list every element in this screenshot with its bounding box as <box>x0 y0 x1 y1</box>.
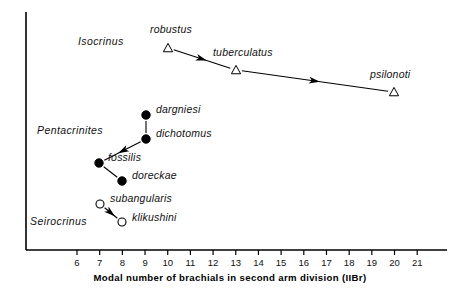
x-tick-label-21: 21 <box>407 257 427 268</box>
x-tick-label-12: 12 <box>203 257 223 268</box>
marker-psilonoti <box>389 87 398 95</box>
species-label-klikushini: klikushini <box>132 211 177 223</box>
marker-doreckae <box>118 177 126 185</box>
marker-dargniesi <box>142 111 150 119</box>
x-tick-label-13: 13 <box>226 257 246 268</box>
x-tick-label-16: 16 <box>294 257 314 268</box>
x-tick-label-15: 15 <box>271 257 291 268</box>
species-label-doreckae: doreckae <box>132 169 177 181</box>
marker-dichotomus <box>142 135 150 143</box>
figure-container: Isocrinus Pentacrinites Seirocrinus robu… <box>0 0 460 303</box>
genus-label-isocrinus: Isocrinus <box>78 35 124 47</box>
x-tick-label-17: 17 <box>316 257 336 268</box>
x-tick-label-14: 14 <box>248 257 268 268</box>
x-axis-label: Modal number of brachials in second arm … <box>94 272 367 283</box>
marker-fossilis <box>95 159 103 167</box>
x-tick-label-10: 10 <box>158 257 178 268</box>
x-tick-label-11: 11 <box>180 257 200 268</box>
x-tick-label-7: 7 <box>90 257 110 268</box>
connector-fossilis-to-doreckae <box>104 167 118 178</box>
x-tick-label-19: 19 <box>362 257 382 268</box>
x-tick-label-9: 9 <box>135 257 155 268</box>
species-label-dargniesi: dargniesi <box>156 103 200 115</box>
species-label-robustus: robustus <box>150 23 192 35</box>
genus-label-seirocrinus: Seirocrinus <box>30 215 87 227</box>
x-tick-label-18: 18 <box>339 257 359 268</box>
arrowhead-robustus-to-tuberculatus <box>195 54 208 64</box>
species-label-psilonoti: psilonoti <box>370 68 410 80</box>
species-label-tuberculatus: tuberculatus <box>213 46 273 58</box>
x-tick-label-6: 6 <box>67 257 87 268</box>
marker-tuberculatus <box>231 65 240 73</box>
species-label-dichotomus: dichotomus <box>156 127 212 139</box>
species-label-subangularis: subangularis <box>110 192 172 204</box>
genus-label-pentacrinites: Pentacrinites <box>37 124 103 136</box>
species-label-fossilis: fossilis <box>108 151 141 163</box>
marker-robustus <box>163 43 172 51</box>
x-tick-label-8: 8 <box>112 257 132 268</box>
arrowhead-tuberculatus-to-psilonoti <box>309 77 321 85</box>
marker-subangularis <box>96 200 104 208</box>
x-tick-label-20: 20 <box>385 257 405 268</box>
marker-klikushini <box>118 218 126 226</box>
